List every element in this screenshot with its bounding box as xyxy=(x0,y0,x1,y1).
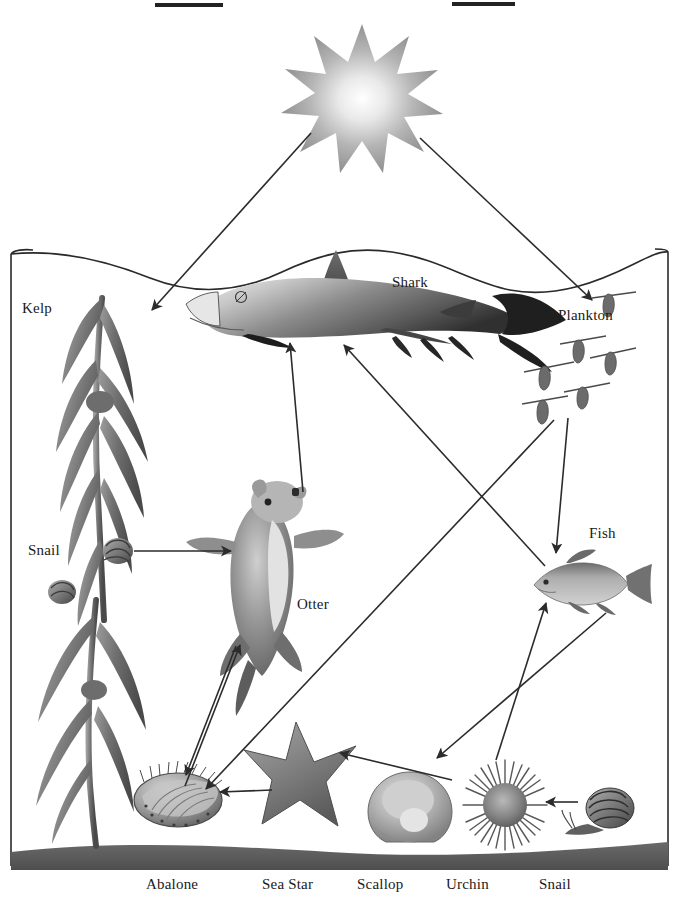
snail-left-secondary xyxy=(48,580,76,604)
plankton-3 xyxy=(560,336,606,363)
arrow-otter-to-abalone xyxy=(186,646,236,775)
label-urchin: Urchin xyxy=(446,876,489,893)
kelp-lower xyxy=(36,600,146,846)
urchin xyxy=(463,760,547,850)
arrow-plankton-to-fish xyxy=(556,418,568,553)
diagram-canvas xyxy=(0,0,679,918)
arrow-otter-to-shark xyxy=(290,343,303,492)
label-scallop: Scallop xyxy=(357,876,403,893)
arrow-sea-star-to-abalone xyxy=(220,790,272,792)
arrow-sun-to-plankton xyxy=(420,138,592,300)
kelp-upper xyxy=(56,298,148,626)
label-kelp: Kelp xyxy=(22,300,52,317)
arrow-fish-to-shark xyxy=(344,345,545,566)
arrow-fish-to-scallop xyxy=(437,613,606,758)
plankton-2 xyxy=(524,362,574,390)
arrow-urchin-to-fish xyxy=(496,603,546,760)
plankton-6 xyxy=(522,396,568,424)
plankton-5 xyxy=(564,383,610,409)
label-plankton: Plankton xyxy=(558,307,613,324)
label-abalone: Abalone xyxy=(146,876,198,893)
seafloor xyxy=(11,842,668,870)
snail-bottom xyxy=(562,788,634,835)
food-web-diagram: Kelp Snail Shark Plankton Fish Otter Aba… xyxy=(0,0,679,918)
snail-left xyxy=(103,538,133,564)
label-snail-bottom: Snail xyxy=(539,876,571,893)
label-sea-star: Sea Star xyxy=(262,876,313,893)
arrow-layer xyxy=(134,133,606,802)
arrow-abalone-to-otter xyxy=(185,645,240,786)
abalone xyxy=(134,761,222,827)
scallop xyxy=(368,772,452,842)
label-snail-left: Snail xyxy=(28,542,60,559)
label-shark: Shark xyxy=(392,274,428,291)
label-otter: Otter xyxy=(297,596,329,613)
fish xyxy=(534,550,652,615)
sun-icon xyxy=(281,24,443,173)
label-fish: Fish xyxy=(589,525,616,542)
sea-star xyxy=(244,722,356,826)
shark xyxy=(186,250,566,372)
plankton-4 xyxy=(590,348,636,375)
